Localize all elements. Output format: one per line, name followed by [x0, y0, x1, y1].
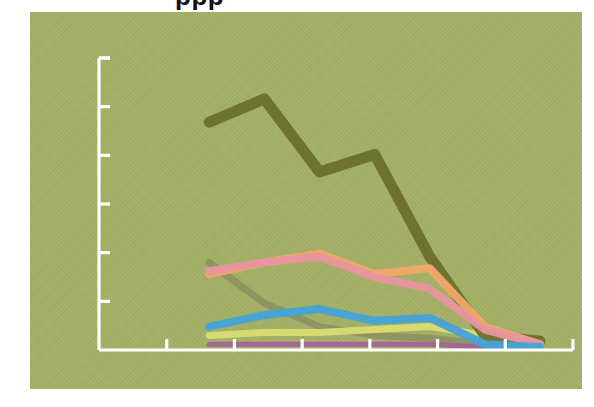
clipped-title-region: ppp [0, 0, 594, 12]
figure-root: ppp [0, 0, 594, 407]
plot-panel [30, 12, 582, 389]
page-title: ppp [175, 0, 224, 12]
